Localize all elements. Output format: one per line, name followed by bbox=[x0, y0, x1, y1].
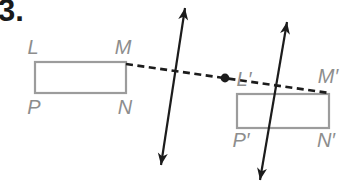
vertex-label-l-prime: L′ bbox=[237, 68, 253, 90]
preimage-rectangle-lmnp bbox=[35, 62, 126, 93]
vertex-label-n: N bbox=[118, 96, 133, 118]
vertex-label-m: M bbox=[115, 36, 132, 58]
parallel-line-left bbox=[161, 8, 185, 165]
parallel-line-right bbox=[260, 22, 287, 180]
vertex-label-p: P bbox=[27, 96, 41, 118]
geometry-diagram: L M P N L′ M′ P′ N′ bbox=[0, 0, 345, 189]
vertex-label-m-prime: M′ bbox=[318, 65, 340, 87]
figure-canvas: 3. L M P N L′ M′ P′ N′ bbox=[0, 0, 345, 189]
point-l-prime-dot bbox=[221, 74, 230, 83]
vertex-label-n-prime: N′ bbox=[317, 129, 336, 151]
vertex-label-l: L bbox=[27, 36, 38, 58]
image-rectangle-lmnp-prime bbox=[237, 94, 329, 128]
vertex-label-p-prime: P′ bbox=[232, 129, 250, 151]
